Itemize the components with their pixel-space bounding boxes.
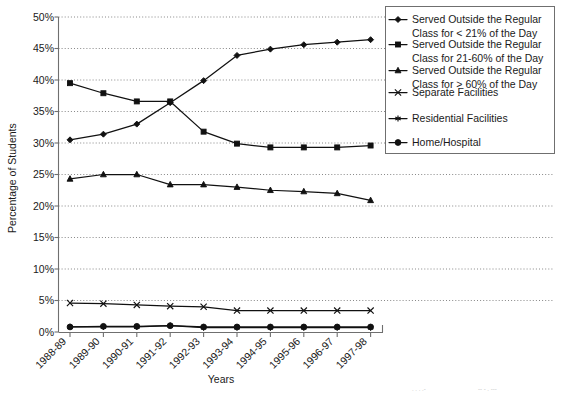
y-tick-label: 45%	[33, 42, 54, 54]
y-tick-label: 30%	[33, 137, 54, 149]
y-tick-label: 5%	[39, 294, 54, 306]
circle-marker	[134, 323, 140, 329]
circle-marker	[368, 324, 374, 330]
circle-marker	[301, 324, 307, 330]
square-marker	[368, 143, 373, 148]
footnote-text-b: ‑‑ ‑ . ‑‑‑	[478, 386, 497, 392]
square-marker	[168, 99, 173, 104]
square-marker	[301, 145, 306, 150]
circle-marker	[101, 323, 107, 329]
chart-figure: 0%5%10%15%20%25%30%35%40%45%50% 1988-891…	[0, 0, 561, 397]
y-tick-label: 10%	[33, 263, 54, 275]
y-tick-label: 25%	[33, 168, 54, 180]
square-marker	[335, 145, 340, 150]
circle-marker	[334, 324, 340, 330]
legend-entry-label: Residential Facilities	[412, 112, 508, 124]
x-axis-title: Years	[208, 373, 234, 385]
square-marker	[68, 81, 73, 86]
square-marker	[235, 141, 240, 146]
line-chart: 0%5%10%15%20%25%30%35%40%45%50% 1988-891…	[0, 0, 561, 397]
y-tick-label: 35%	[33, 105, 54, 117]
square-marker	[101, 91, 106, 96]
chart-legend: Served Outside the RegularClass for < 21…	[386, 7, 555, 154]
y-tick-label: 40%	[33, 74, 54, 86]
y-tick-label: 0%	[39, 326, 54, 338]
circle-marker	[201, 324, 207, 330]
legend-entry-label: Served Outside the Regular	[412, 38, 542, 50]
y-tick-label: 50%	[33, 11, 54, 23]
square-marker	[268, 145, 273, 150]
circle-marker	[268, 324, 274, 330]
circle-marker	[67, 324, 73, 330]
legend-entry-label-cont: Class for < 21% of the Day	[412, 27, 538, 39]
square-marker	[396, 42, 401, 47]
legend-entry-label: Home/Hospital	[412, 136, 481, 148]
circle-marker	[234, 324, 240, 330]
y-tick-label: 20%	[33, 200, 54, 212]
square-marker	[134, 99, 139, 104]
legend-entry-label-cont: Class for 21-60% of the Day	[412, 52, 544, 64]
square-marker	[201, 129, 206, 134]
legend-entry-label: Separate Facilities	[412, 86, 498, 98]
circle-marker	[395, 140, 401, 146]
y-axis-title: Percentage of Students	[6, 123, 18, 233]
legend-entry-label: Served Outside the Regular	[412, 64, 542, 76]
footnote-text-a: . . . .‑	[412, 386, 426, 392]
y-tick-label: 15%	[33, 231, 54, 243]
circle-marker	[167, 323, 173, 329]
legend-entry-label: Served Outside the Regular	[412, 13, 542, 25]
